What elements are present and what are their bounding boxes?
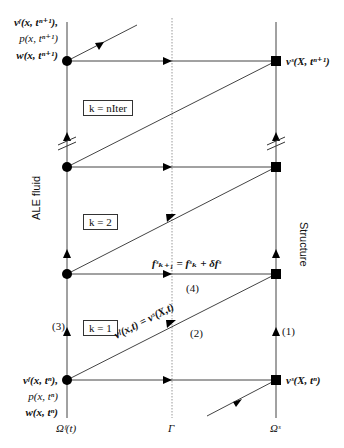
structure-node-top <box>271 56 281 66</box>
force-update-formula: fˢₖ₊₁ = fˢₖ + δfˢ <box>152 257 221 270</box>
bottom-mesh-velocity-label: w(x, tⁿ) <box>4 406 58 419</box>
top-structure-velocity-label: vˢ(X, tⁿ⁺¹) <box>286 55 330 68</box>
incoming-diagonal-bottom <box>207 380 276 416</box>
bottom-structure-velocity-label: vˢ(X, tⁿ) <box>286 374 321 387</box>
step-label-4: (4) <box>186 282 199 295</box>
iteration-box-niter: k = nIter <box>83 100 133 116</box>
fluid-domain-label: Ωᶠ(t) <box>56 422 76 435</box>
structure-domain-label: Ωˢ <box>270 422 280 435</box>
fluid-axis-label: ALE fluid <box>30 176 42 220</box>
structure-axis-label: Structure <box>298 222 310 267</box>
structure-node-niter <box>271 162 281 172</box>
top-fluid-velocity-label: vᶠ(x, tⁿ⁺¹), <box>4 16 58 29</box>
fluid-node-k2 <box>62 269 72 279</box>
structure-node-k2 <box>271 269 281 279</box>
fluid-node-bottom <box>62 375 72 385</box>
top-mesh-velocity-label: w(x, tⁿ⁺¹) <box>4 49 58 62</box>
step-label-1: (1) <box>282 325 295 338</box>
fluid-node-niter <box>62 162 72 172</box>
structure-node-bottom <box>271 375 281 385</box>
bottom-fluid-velocity-label: vᶠ(x, tⁿ), <box>4 374 58 387</box>
top-pressure-label: p(x, tⁿ⁺¹) <box>4 32 58 45</box>
fluid-node-top <box>62 56 72 66</box>
step-label-2: (2) <box>190 327 203 340</box>
interface-label: Γ <box>168 422 174 435</box>
iteration-box-k1: k = 1 <box>83 320 118 336</box>
iteration-box-k2: k = 2 <box>83 214 118 230</box>
bottom-pressure-label: p(x, tⁿ) <box>4 390 58 403</box>
step-label-3: (3) <box>52 320 65 333</box>
